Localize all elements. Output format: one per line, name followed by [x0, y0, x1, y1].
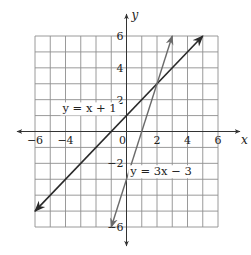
x-tick-label: −4	[57, 134, 73, 147]
x-tick-label: −6	[27, 134, 43, 147]
y-tick-label: 6	[117, 30, 124, 43]
y-tick-label: −2	[107, 157, 123, 170]
axes: xy	[17, 8, 248, 246]
x-tick-label: 4	[184, 134, 191, 147]
y-tick-label: −6	[107, 221, 123, 234]
equation-label-1: y = x + 1	[61, 101, 116, 115]
coordinate-plane-chart: xy −6−40246642−2−6 y = x + 1y = 3x − 3	[0, 0, 251, 255]
x-tick-label: 0	[119, 134, 126, 147]
x-tick-label: 2	[154, 134, 161, 147]
y-axis-label: y	[131, 8, 139, 22]
x-tick-label: 6	[215, 134, 222, 147]
y-tick-label: 4	[117, 62, 124, 75]
x-axis-label: x	[241, 133, 248, 147]
equation-label-2: y = 3x − 3	[129, 164, 192, 178]
